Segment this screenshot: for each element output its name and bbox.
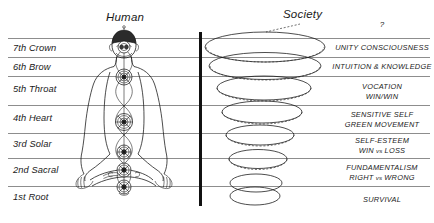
spiral-loop-5 bbox=[226, 125, 294, 145]
human-figure-illustration bbox=[0, 0, 434, 223]
spiral-dash-2 bbox=[210, 66, 320, 80]
chakra-society-diagram: Human Society 7th Crown 6th Brow 5th Thr… bbox=[0, 0, 434, 223]
spiral-loop-4 bbox=[222, 101, 302, 123]
chakra-disc-sacral bbox=[117, 163, 131, 177]
chakra-disc-solar bbox=[117, 145, 131, 159]
chakra-disc-heart bbox=[116, 114, 133, 131]
spiral-dash-6 bbox=[229, 159, 287, 170]
chakra-disc-root bbox=[117, 180, 131, 195]
spiral-dash-top bbox=[266, 24, 300, 32]
spiral-dash-5 bbox=[226, 135, 294, 146]
society-spiral bbox=[205, 24, 325, 205]
spiral-loop-8 bbox=[230, 187, 280, 205]
chakra-disc-brow bbox=[118, 41, 130, 53]
chakra-disc-throat bbox=[116, 69, 132, 85]
spiral-dash-3 bbox=[217, 88, 311, 101]
spiral-dash-1 bbox=[206, 47, 324, 62]
spiral-dash-4 bbox=[222, 112, 302, 124]
spiral-loop-6 bbox=[229, 150, 287, 169]
